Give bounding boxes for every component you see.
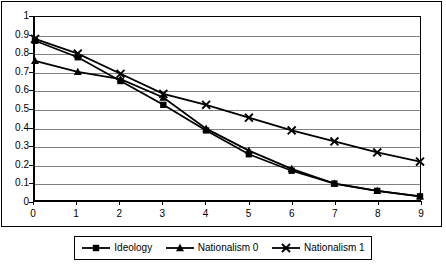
x-axis-tick-label: 0 <box>23 209 43 219</box>
x-axis-tick-mark <box>33 201 34 205</box>
x-axis-tick-mark <box>292 201 293 205</box>
y-axis-tick-label: 0.4 <box>15 123 29 133</box>
x-axis-tick-label: 4 <box>195 209 215 219</box>
x-axis-tick-mark <box>119 201 120 205</box>
triangle-marker-icon <box>165 242 195 254</box>
x-axis-tick-label: 2 <box>109 209 129 219</box>
x-marker-icon <box>271 242 301 254</box>
x-axis-tick-label: 1 <box>66 209 86 219</box>
y-axis-tick-label: 0.8 <box>15 48 29 58</box>
legend-entry[interactable]: Ideology <box>81 242 152 254</box>
chart-container: 10.90.80.70.60.50.40.30.20.10 0123456789… <box>0 0 446 268</box>
y-axis-tick-label: 0.2 <box>15 160 29 170</box>
legend-entry[interactable]: Nationalism 1 <box>271 242 365 254</box>
y-axis-tick-label: 0.3 <box>15 141 29 151</box>
x-axis-tick-label: 5 <box>239 209 259 219</box>
x-axis-tick-mark <box>205 201 206 205</box>
x-axis-tick-mark <box>335 201 336 205</box>
x-axis-tick-label: 9 <box>411 209 431 219</box>
series-nationalism-0 <box>31 57 424 200</box>
y-axis-tick-label: 0.9 <box>15 30 29 40</box>
x-axis-tick-label: 3 <box>152 209 172 219</box>
x-axis-tick-label: 7 <box>325 209 345 219</box>
triangle-marker-icon <box>31 57 39 64</box>
plot-area <box>33 16 421 202</box>
square-marker-icon <box>93 245 99 251</box>
legend-entry[interactable]: Nationalism 0 <box>165 242 259 254</box>
x-axis-tick-mark <box>76 201 77 205</box>
series-line <box>35 41 420 197</box>
square-marker-icon <box>81 242 111 254</box>
y-axis-tick-label: 0.6 <box>15 85 29 95</box>
legend-label: Nationalism 1 <box>304 243 365 253</box>
series-layer <box>35 17 420 200</box>
x-axis-tick-label: 8 <box>368 209 388 219</box>
y-axis-tick-label: 0.1 <box>15 178 29 188</box>
series-line <box>35 61 420 196</box>
x-axis-labels: 0123456789 <box>33 205 421 221</box>
square-marker-icon <box>160 102 166 108</box>
series-ideology <box>32 38 423 200</box>
y-axis-tick-label: 0.5 <box>15 104 29 114</box>
series-nationalism-1 <box>31 35 424 165</box>
x-axis-tick-mark <box>378 201 379 205</box>
legend-label: Nationalism 0 <box>198 243 259 253</box>
y-axis-tick-label: 0.7 <box>15 67 29 77</box>
x-axis-tick-mark <box>421 201 422 205</box>
y-axis-labels: 10.90.80.70.60.50.40.30.20.10 <box>0 0 29 226</box>
x-axis-tick-mark <box>249 201 250 205</box>
legend-label: Ideology <box>114 243 152 253</box>
x-axis-tick-mark <box>162 201 163 205</box>
chart-legend: IdeologyNationalism 0Nationalism 1 <box>74 236 372 260</box>
x-axis-tick-label: 6 <box>282 209 302 219</box>
